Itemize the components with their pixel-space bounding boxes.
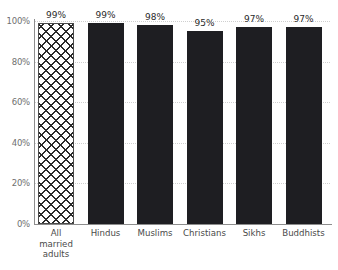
- x-axis-line: [34, 224, 332, 225]
- bar-value-label: 99%: [32, 11, 80, 20]
- bar[interactable]: [137, 25, 173, 224]
- bar[interactable]: [236, 27, 272, 224]
- y-axis-tick-label: 60%: [0, 98, 30, 107]
- bar-value-label: 99%: [82, 11, 130, 20]
- bar-group: 99%99%98%95%97%97%: [34, 21, 330, 224]
- y-axis-tick-label: 100%: [0, 17, 30, 26]
- bar[interactable]: [88, 23, 124, 224]
- bar-value-label: 97%: [280, 15, 328, 24]
- y-axis-tick-label: 20%: [0, 179, 30, 188]
- bar-chart: 0%20%40%60%80%100% 99%99%98%95%97%97% Al…: [0, 0, 338, 270]
- bar-value-label: 98%: [131, 13, 179, 22]
- bar[interactable]: [286, 27, 322, 224]
- bar-value-label: 97%: [230, 15, 278, 24]
- y-axis-tick-label: 80%: [0, 57, 30, 66]
- y-axis-tick-label: 0%: [0, 220, 30, 229]
- bar-value-label: 95%: [181, 19, 229, 28]
- y-axis-tick-label: 40%: [0, 139, 30, 148]
- bar[interactable]: [38, 23, 74, 224]
- x-axis-category-label: Buddhists: [273, 228, 335, 239]
- bar[interactable]: [187, 31, 223, 224]
